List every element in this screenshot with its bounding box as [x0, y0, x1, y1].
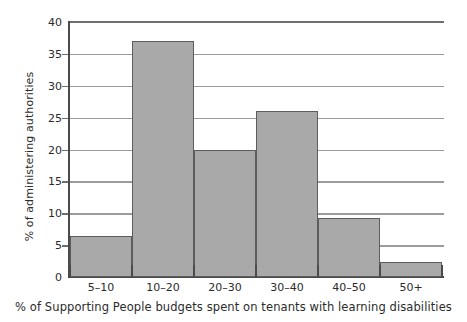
x-tick-mark: [379, 265, 381, 277]
y-tick-label: 30: [4, 79, 62, 92]
x-tick-mark: [317, 265, 319, 277]
bar-20-30: [194, 150, 256, 278]
y-axis-tick-labels: 40 35 30 25 20 15 10 5 0: [0, 0, 62, 322]
x-tick-mark: [441, 265, 443, 277]
bar-40-50: [318, 218, 380, 277]
y-tick-label: 25: [4, 111, 62, 124]
y-tick-label: 15: [4, 175, 62, 188]
x-tick-label: 50+: [399, 281, 422, 294]
y-tick-label: 0: [4, 271, 62, 284]
y-tick-label: 35: [4, 47, 62, 60]
x-tick-label: 30–40: [270, 281, 304, 294]
y-tick-label: 5: [4, 239, 62, 252]
x-tick-label: 10–20: [146, 281, 180, 294]
y-tick-label: 20: [4, 143, 62, 156]
x-tick-label: 5–10: [88, 281, 115, 294]
x-tick-mark: [255, 265, 257, 277]
bar-30-40: [256, 111, 318, 277]
x-tick-label: 20–30: [208, 281, 242, 294]
x-tick-mark: [131, 265, 133, 277]
bar-50plus: [380, 262, 442, 277]
bar-series: [68, 22, 443, 277]
x-tick-mark: [193, 265, 195, 277]
x-tick-label: 40–50: [332, 281, 366, 294]
y-tick-label: 10: [4, 207, 62, 220]
bar-10-20: [132, 41, 194, 278]
x-tick-mark: [69, 265, 71, 277]
bar-chart: % of administering authorities 40 35 30 …: [0, 0, 467, 322]
x-axis-title: % of Supporting People budgets spent on …: [0, 300, 467, 314]
y-tick-label: 40: [4, 16, 62, 29]
bar-5-10: [70, 236, 132, 277]
